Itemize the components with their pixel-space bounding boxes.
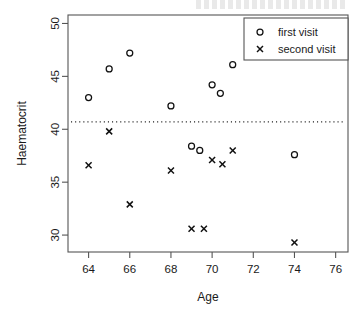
legend: first visitsecond visit	[244, 18, 348, 60]
data-point-circle	[106, 66, 112, 72]
data-point-cross	[168, 168, 174, 174]
data-point-cross	[106, 128, 112, 134]
scatter-plot-figure: 64666870727476Age3035404550Haematocritfi…	[0, 0, 362, 321]
data-point-circle	[168, 103, 174, 109]
data-point-cross	[230, 147, 236, 153]
plot-canvas: 64666870727476Age3035404550Haematocritfi…	[0, 0, 362, 321]
data-point-cross	[291, 239, 297, 245]
data-points	[86, 50, 298, 245]
x-axis-title: Age	[197, 290, 219, 304]
data-point-circle	[291, 152, 297, 158]
data-point-cross	[86, 162, 92, 168]
y-tick-label: 35	[49, 176, 61, 189]
x-tick-label: 68	[165, 263, 178, 275]
y-axis: 3035404550Haematocrit	[15, 17, 68, 241]
series-first-visit	[86, 50, 298, 158]
series-second-visit	[86, 128, 298, 245]
x-tick-label: 74	[288, 263, 301, 275]
data-point-cross	[219, 161, 225, 167]
data-point-cross	[127, 201, 133, 207]
y-tick-label: 45	[49, 70, 61, 83]
x-tick-label: 76	[329, 263, 342, 275]
y-axis-title: Haematocrit	[15, 100, 29, 165]
data-point-cross	[201, 226, 207, 232]
x-tick-label: 72	[247, 263, 260, 275]
legend-label: first visit	[278, 26, 318, 38]
data-point-circle	[189, 143, 195, 149]
data-point-circle	[86, 95, 92, 101]
x-tick-label: 66	[123, 263, 136, 275]
x-tick-label: 64	[82, 263, 95, 275]
y-tick-label: 40	[49, 123, 61, 136]
data-point-cross	[209, 157, 215, 163]
data-point-circle	[230, 62, 236, 68]
legend-label: second visit	[278, 43, 335, 55]
x-axis: 64666870727476Age	[82, 252, 342, 304]
y-tick-label: 50	[49, 17, 61, 30]
data-point-circle	[127, 50, 133, 56]
x-tick-label: 70	[206, 263, 219, 275]
data-point-circle	[209, 82, 215, 88]
data-point-cross	[189, 226, 195, 232]
data-point-circle	[217, 90, 223, 96]
y-tick-label: 30	[49, 229, 61, 242]
data-point-circle	[197, 147, 203, 153]
